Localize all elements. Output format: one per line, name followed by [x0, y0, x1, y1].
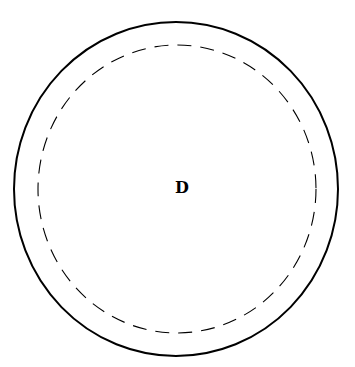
diagram-canvas: D — [0, 0, 355, 367]
region-label: D — [175, 178, 189, 197]
